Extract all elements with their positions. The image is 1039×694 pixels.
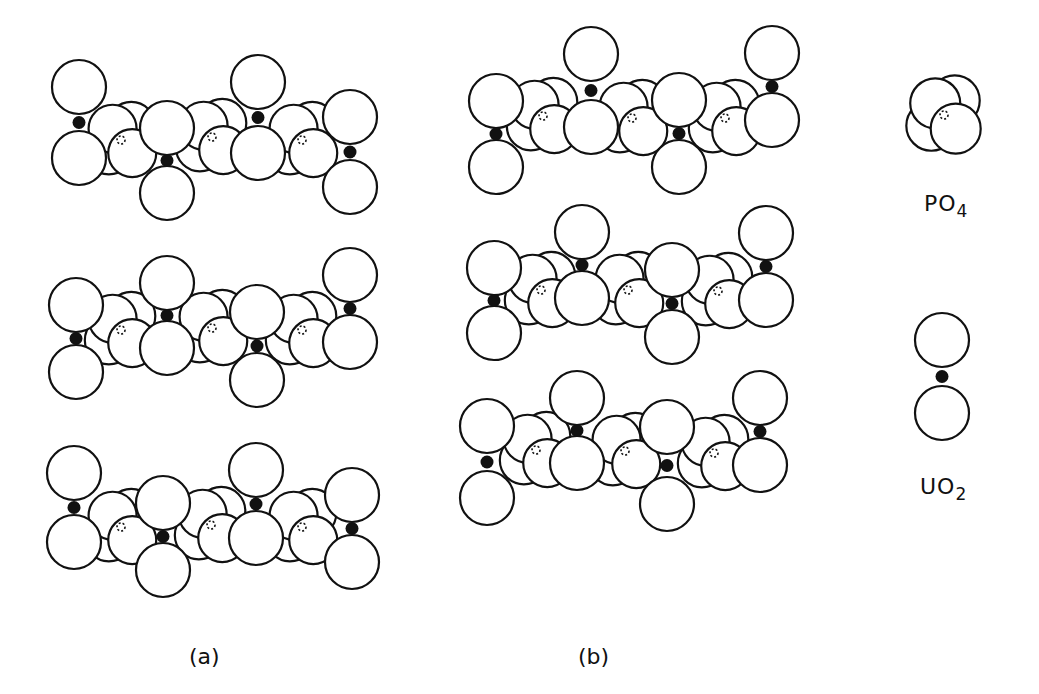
oxygen-atom	[640, 477, 694, 531]
layer-b-row-3	[460, 371, 787, 531]
oxygen-atom	[460, 399, 514, 453]
panel-label-a: (a)	[189, 644, 220, 669]
oxygen-atom	[652, 140, 706, 194]
uranium-atom	[766, 80, 779, 93]
uo2-uranyl-unit	[915, 313, 969, 440]
oxygen-atom	[229, 511, 283, 565]
oxygen-atom	[47, 446, 101, 500]
oxygen-atom	[564, 100, 618, 154]
layer-a-row-3	[47, 443, 379, 597]
uranium-atom	[251, 340, 264, 353]
oxygen-atom	[323, 315, 377, 369]
oxygen-atom	[47, 515, 101, 569]
panel-label-b: (b)	[578, 644, 609, 669]
oxygen-atom	[555, 205, 609, 259]
legend-label-po4: PO4	[924, 191, 968, 221]
uranium-atom	[68, 501, 81, 514]
oxygen-atom	[652, 73, 706, 127]
oxygen-atom	[460, 471, 514, 525]
oxygen-atom	[136, 543, 190, 597]
layer-b-row-2	[467, 205, 793, 364]
uranyl-phosphate-layer-diagram	[0, 0, 1039, 694]
uranium-atom	[754, 425, 767, 438]
oxygen-atom	[733, 371, 787, 425]
oxygen-atom	[467, 241, 521, 295]
uranium-atom	[344, 302, 357, 315]
oxygen-atom	[52, 131, 106, 185]
oxygen-atom	[230, 285, 284, 339]
legend-shapes	[906, 75, 980, 440]
oxygen-atom	[550, 371, 604, 425]
oxygen-atom	[555, 271, 609, 325]
uranium-atom	[585, 84, 598, 97]
oxygen-atom	[915, 386, 969, 440]
uranium-atom	[161, 309, 174, 322]
layer-a-row-2	[49, 248, 377, 407]
oxygen-atom	[140, 321, 194, 375]
oxygen-atom	[231, 126, 285, 180]
uranium-atom	[488, 294, 501, 307]
layer-b-row-1	[469, 26, 799, 194]
legend-label-uo2: UO2	[920, 474, 967, 504]
oxygen-atom	[640, 400, 694, 454]
oxygen-atom	[323, 90, 377, 144]
oxygen-atom	[733, 438, 787, 492]
uranium-atom	[571, 424, 584, 437]
oxygen-atom	[745, 26, 799, 80]
oxygen-atom	[469, 74, 523, 128]
oxygen-atom	[564, 27, 618, 81]
oxygen-atom	[52, 60, 106, 114]
uranium-atom	[673, 127, 686, 140]
uranium-atom	[481, 456, 494, 469]
legend-uo2-shape	[915, 313, 969, 440]
oxygen-atom	[467, 306, 521, 360]
oxygen-atom	[230, 353, 284, 407]
uranium-atom	[161, 154, 174, 167]
uranium-atom	[157, 530, 170, 543]
layer-structures	[47, 26, 799, 597]
oxygen-atom	[323, 160, 377, 214]
uranium-atom	[661, 459, 674, 472]
oxygen-atom	[140, 101, 194, 155]
oxygen-atom	[469, 140, 523, 194]
oxygen-atom	[931, 104, 981, 154]
uranium-atom	[252, 111, 265, 124]
oxygen-atom	[645, 310, 699, 364]
oxygen-atom	[49, 345, 103, 399]
uranium-atom	[760, 260, 773, 273]
oxygen-atom	[550, 436, 604, 490]
oxygen-atom	[140, 166, 194, 220]
uranium-atom	[250, 498, 263, 511]
legend-po4-shape	[906, 75, 980, 153]
oxygen-atom	[49, 278, 103, 332]
uranium-atom	[576, 259, 589, 272]
oxygen-atom	[325, 468, 379, 522]
oxygen-atom	[645, 243, 699, 297]
uranium-atom	[936, 370, 949, 383]
layer-a-row-1	[52, 55, 377, 220]
oxygen-atom	[140, 256, 194, 310]
uranium-atom	[490, 128, 503, 141]
oxygen-atom	[325, 535, 379, 589]
uranium-atom	[344, 146, 357, 159]
po4-tetrahedron	[906, 75, 980, 153]
oxygen-atom	[915, 313, 969, 367]
oxygen-atom	[231, 55, 285, 109]
oxygen-atom	[739, 273, 793, 327]
oxygen-atom	[739, 206, 793, 260]
uranium-atom	[666, 297, 679, 310]
oxygen-atom	[136, 476, 190, 530]
oxygen-atom	[745, 93, 799, 147]
oxygen-atom	[323, 248, 377, 302]
uranium-atom	[73, 116, 86, 129]
uranium-atom	[346, 522, 359, 535]
uranium-atom	[70, 332, 83, 345]
oxygen-atom	[229, 443, 283, 497]
